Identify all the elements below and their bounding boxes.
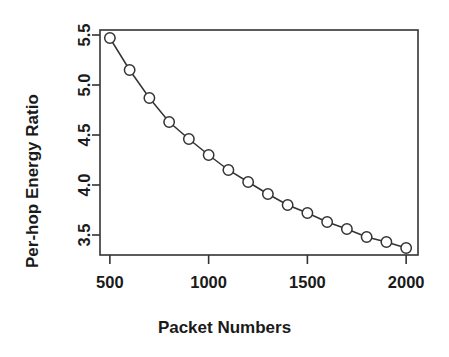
data-point <box>322 217 332 227</box>
data-point <box>184 134 194 144</box>
data-point <box>164 117 174 127</box>
y-axis-title: Per-hop Energy Ratio <box>23 94 43 268</box>
data-point <box>203 150 213 160</box>
y-tick-label: 5.0 <box>75 74 93 97</box>
data-point <box>361 232 371 242</box>
x-tick-label: 1000 <box>190 273 227 291</box>
data-point <box>144 93 154 103</box>
x-axis: 500100015002000 <box>96 255 424 291</box>
x-axis-title: Packet Numbers <box>0 318 449 338</box>
x-tick-label: 2000 <box>388 273 425 291</box>
data-point <box>282 200 292 210</box>
data-point <box>342 224 352 234</box>
data-point <box>401 243 411 253</box>
data-point <box>124 65 134 75</box>
data-point <box>105 33 115 43</box>
data-point-markers <box>105 33 412 253</box>
plot-canvas: 3.54.04.55.05.5 500100015002000 <box>0 0 449 357</box>
data-series-line <box>110 38 406 248</box>
plot-frame <box>100 30 418 255</box>
y-axis: 3.54.04.55.05.5 <box>75 24 100 247</box>
chart-figure: 3.54.04.55.05.5 500100015002000 Per-hop … <box>0 0 449 357</box>
y-tick-label: 5.5 <box>75 24 93 47</box>
x-tick-label: 500 <box>96 273 124 291</box>
data-point <box>243 177 253 187</box>
y-tick-label: 4.0 <box>75 174 93 197</box>
data-point <box>263 189 273 199</box>
x-tick-label: 1500 <box>289 273 326 291</box>
y-tick-label: 4.5 <box>75 124 93 147</box>
data-point <box>223 165 233 175</box>
data-point <box>381 237 391 247</box>
y-tick-label: 3.5 <box>75 224 93 247</box>
data-point <box>302 208 312 218</box>
